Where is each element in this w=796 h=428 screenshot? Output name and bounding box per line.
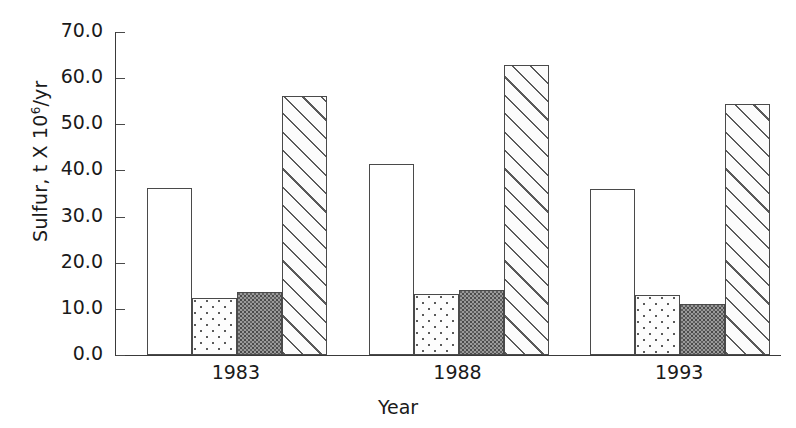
y-axis-tick-label: 60.0 (61, 65, 103, 87)
y-axis-tick-mark (116, 124, 125, 125)
y-axis-tick-label: 20.0 (61, 250, 103, 272)
y-axis-tick-mark (116, 32, 125, 33)
y-axis-tick-label: 10.0 (61, 296, 103, 318)
bar-group (590, 32, 770, 355)
bar-group (369, 32, 549, 355)
bar-1983-series-3-dark (237, 292, 282, 355)
bar-1983-series-2-dotted (192, 298, 237, 355)
x-axis-title: Year (0, 396, 796, 418)
plot-area: 0.010.020.030.040.050.060.070.0 (115, 32, 781, 356)
bar-1988-series-2-dotted (414, 294, 459, 355)
y-axis-tick-label: 0.0 (73, 342, 103, 364)
y-axis-tick-mark (116, 170, 125, 171)
y-axis-title-exponent: 6 (29, 107, 43, 115)
bar-1983-series-1-white (147, 188, 192, 355)
x-axis-category-label: 1993 (589, 361, 769, 383)
bar-1993-series-4-hatch (725, 104, 770, 355)
bar-1988-series-1-white (369, 164, 414, 355)
bar-1993-series-1-white (590, 189, 635, 355)
y-axis-title-main: Sulfur, t X 10 (29, 114, 51, 242)
y-axis-tick-mark (116, 355, 125, 356)
y-axis-tick-mark (116, 309, 125, 310)
y-axis-title-suffix: /yr (29, 80, 51, 106)
y-axis-tick-label: 50.0 (61, 111, 103, 133)
x-axis-category-label: 1988 (368, 361, 548, 383)
bar-1983-series-4-hatch (282, 96, 327, 355)
chart-figure: Sulfur, t X 106/yr 0.010.020.030.040.050… (0, 0, 796, 428)
y-axis-tick-mark (116, 217, 125, 218)
y-axis-tick-mark (116, 78, 125, 79)
bar-1993-series-3-dark (680, 304, 725, 355)
bar-group (147, 32, 327, 355)
x-axis-category-label: 1983 (146, 361, 326, 383)
y-axis-tick-label: 70.0 (61, 19, 103, 41)
y-axis-tick-label: 30.0 (61, 204, 103, 226)
y-axis-tick-label: 40.0 (61, 157, 103, 179)
y-axis-title: Sulfur, t X 106/yr (29, 11, 51, 311)
bar-1988-series-3-dark (459, 290, 504, 355)
y-axis-tick-mark (116, 263, 125, 264)
bar-1988-series-4-hatch (504, 65, 549, 355)
bar-1993-series-2-dotted (635, 295, 680, 355)
